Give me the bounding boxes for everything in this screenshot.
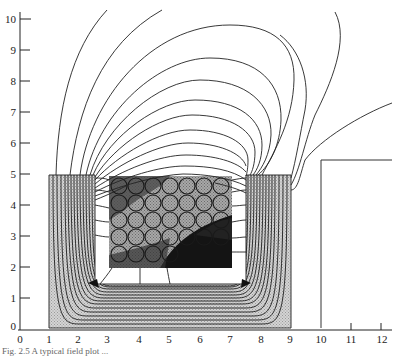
svg-text:8: 8 — [258, 333, 264, 345]
svg-text:3: 3 — [104, 333, 110, 345]
svg-text:10: 10 — [5, 13, 17, 25]
svg-text:1: 1 — [11, 292, 17, 304]
svg-text:6: 6 — [11, 137, 17, 149]
svg-text:7: 7 — [11, 106, 17, 118]
x-tick-labels: 0 1 2 3 4 5 6 7 8 9 10 11 12 — [17, 333, 387, 345]
svg-text:2: 2 — [75, 333, 81, 345]
svg-text:4: 4 — [11, 199, 17, 211]
svg-text:11: 11 — [346, 333, 357, 345]
svg-text:4: 4 — [136, 333, 142, 345]
svg-text:2: 2 — [11, 261, 17, 273]
external-flux-lines — [56, 10, 294, 200]
svg-text:5: 5 — [11, 168, 17, 180]
svg-text:6: 6 — [197, 333, 203, 345]
svg-text:9: 9 — [287, 333, 293, 345]
svg-text:0: 0 — [17, 333, 23, 345]
svg-text:7: 7 — [227, 333, 233, 345]
svg-text:12: 12 — [377, 333, 388, 345]
figure-caption: Fig. 2.5 A typical field plot ... — [2, 346, 108, 356]
coil-region — [109, 176, 232, 268]
svg-text:0: 0 — [11, 320, 17, 332]
svg-text:8: 8 — [11, 75, 17, 87]
svg-text:5: 5 — [166, 333, 172, 345]
svg-text:3: 3 — [11, 230, 17, 242]
y-tick-labels: 10 9 8 7 6 5 4 3 2 1 0 — [5, 13, 17, 332]
svg-text:1: 1 — [46, 333, 52, 345]
svg-text:9: 9 — [11, 44, 17, 56]
right-flux-lines — [280, 12, 392, 190]
svg-text:10: 10 — [316, 333, 328, 345]
right-structure — [321, 160, 392, 328]
